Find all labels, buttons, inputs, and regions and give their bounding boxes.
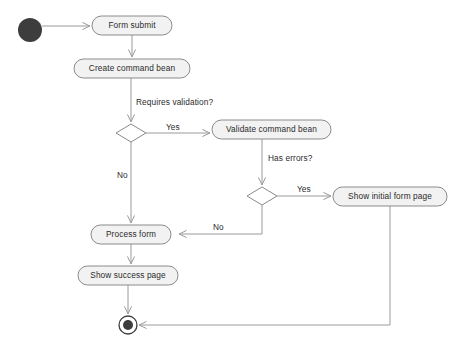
action-node-show-initial-form-page[interactable]: Show initial form page <box>333 187 447 206</box>
edge-label-requires-validation: Requires validation? <box>136 97 213 107</box>
edge-label-no-process-form: No <box>117 170 128 180</box>
action-label-show-initial-form-page: Show initial form page <box>348 191 432 201</box>
action-node-form-submit[interactable]: Form submit <box>92 16 172 35</box>
activity-diagram-svg: Form submit Create command bean Validate… <box>0 0 459 348</box>
edge-show-initial-form-page-to-end <box>139 206 390 325</box>
action-node-create-command-bean[interactable]: Create command bean <box>74 59 190 78</box>
action-label-create-command-bean: Create command bean <box>89 63 176 73</box>
edge-label-yes-validate: Yes <box>166 122 180 132</box>
action-node-validate-command-bean[interactable]: Validate command bean <box>212 120 331 139</box>
action-node-show-success-page[interactable]: Show success page <box>78 266 178 285</box>
action-node-process-form[interactable]: Process form <box>91 225 171 244</box>
decision-node-requires-validation[interactable] <box>116 124 146 142</box>
action-label-show-success-page: Show success page <box>90 270 166 280</box>
edge-label-has-errors: Has errors? <box>268 153 313 163</box>
edge-label-no-back-to-process: No <box>213 222 224 232</box>
action-label-validate-command-bean: Validate command bean <box>226 124 317 134</box>
final-node <box>119 316 137 334</box>
edge-label-yes-initial-form: Yes <box>297 184 311 194</box>
action-label-form-submit: Form submit <box>108 20 156 30</box>
decision-node-has-errors[interactable] <box>247 187 277 205</box>
activity-diagram-canvas: Form submit Create command bean Validate… <box>0 0 459 348</box>
action-label-process-form: Process form <box>106 229 156 239</box>
initial-node <box>18 18 42 42</box>
